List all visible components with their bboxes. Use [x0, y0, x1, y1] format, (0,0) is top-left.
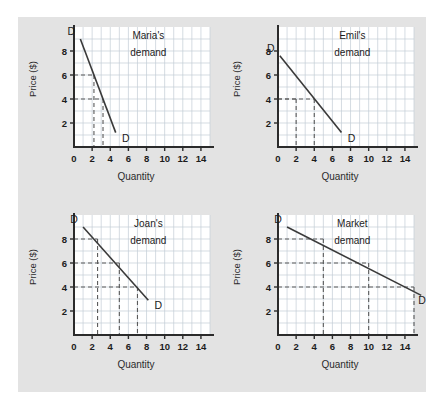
- x-tick-label: 10: [363, 153, 374, 164]
- chart-market: 246802468101214QuantityPrice ($)Marketde…: [222, 205, 426, 392]
- x-axis-ticks: 02468101214: [71, 335, 207, 352]
- x-axis-label: Quantity: [321, 171, 358, 182]
- x-tick-label: 10: [159, 341, 170, 352]
- y-tick-label: 4: [266, 94, 272, 105]
- chart-title-line2: demand: [334, 47, 370, 58]
- curve-label-start: D: [68, 25, 76, 37]
- chart-maria: 246802468101214QuantityPrice ($)Maria'sd…: [18, 17, 222, 204]
- x-tick-label: 12: [382, 341, 393, 352]
- x-tick-label: 4: [312, 153, 318, 164]
- y-tick-label: 4: [266, 282, 272, 293]
- y-axis-ticks: 2468: [62, 46, 74, 129]
- x-tick-label: 4: [108, 153, 114, 164]
- demand-curves-figure: 246802468101214QuantityPrice ($)Maria'sd…: [0, 0, 445, 410]
- y-tick-label: 2: [266, 306, 271, 317]
- x-tick-label: 8: [348, 153, 353, 164]
- y-tick-label: 8: [266, 234, 271, 245]
- x-tick-label: 0: [275, 341, 280, 352]
- x-tick-label: 0: [275, 153, 280, 164]
- curve-label-end: D: [418, 294, 426, 306]
- chart-title-line2: demand: [130, 235, 166, 246]
- chart-title-line1: Joan's: [134, 218, 163, 229]
- y-tick-label: 6: [62, 70, 67, 81]
- x-tick-label: 14: [400, 341, 411, 352]
- x-tick-label: 14: [196, 153, 207, 164]
- x-tick-label: 6: [330, 341, 335, 352]
- x-tick-label: 6: [330, 153, 335, 164]
- x-tick-label: 4: [108, 341, 114, 352]
- figure-panel: 246802468101214QuantityPrice ($)Maria'sd…: [18, 17, 426, 392]
- x-tick-label: 10: [159, 153, 170, 164]
- x-tick-label: 2: [293, 341, 298, 352]
- y-tick-label: 4: [62, 282, 68, 293]
- x-axis-ticks: 02468101214: [71, 147, 207, 164]
- y-axis-label: Price ($): [27, 249, 38, 285]
- x-tick-label: 2: [89, 153, 94, 164]
- curve-label-start: D: [274, 213, 282, 225]
- chart-title-line1: Emil's: [339, 30, 365, 41]
- curve-label-start: D: [70, 213, 78, 225]
- y-tick-label: 2: [62, 306, 67, 317]
- chart-joan: 246802468101214QuantityPrice ($)Joan'sde…: [18, 205, 222, 392]
- x-tick-label: 0: [71, 341, 76, 352]
- chart-grid: 246802468101214QuantityPrice ($)Maria'sd…: [18, 17, 426, 392]
- y-axis-label: Price ($): [27, 61, 38, 97]
- x-tick-label: 10: [363, 341, 374, 352]
- x-tick-label: 14: [196, 341, 207, 352]
- x-tick-label: 0: [71, 153, 76, 164]
- curve-label-end: D: [155, 299, 163, 311]
- chart-cell-maria: 246802468101214QuantityPrice ($)Maria'sd…: [18, 17, 222, 204]
- y-axis-ticks: 2468: [62, 234, 74, 317]
- y-axis-label: Price ($): [231, 249, 242, 285]
- y-tick-label: 6: [62, 258, 67, 269]
- chart-title-line1: Market: [337, 218, 368, 229]
- y-tick-label: 6: [266, 70, 271, 81]
- chart-title-line2: demand: [130, 47, 166, 58]
- x-axis-label: Quantity: [117, 171, 154, 182]
- x-tick-label: 6: [126, 341, 131, 352]
- chart-cell-joan: 246802468101214QuantityPrice ($)Joan'sde…: [18, 205, 222, 392]
- x-tick-label: 14: [400, 153, 411, 164]
- y-tick-label: 4: [62, 94, 68, 105]
- y-axis-ticks: 2468: [266, 46, 278, 129]
- x-axis-label: Quantity: [321, 359, 358, 370]
- y-tick-label: 2: [266, 118, 271, 129]
- x-tick-label: 6: [126, 153, 131, 164]
- x-axis-ticks: 02468101214: [275, 147, 411, 164]
- y-tick-label: 8: [62, 234, 67, 245]
- chart-cell-emil: 246802468101214QuantityPrice ($)Emil'sde…: [222, 17, 426, 204]
- chart-title-line1: Maria's: [132, 30, 164, 41]
- curve-label-end: D: [348, 132, 356, 144]
- y-tick-label: 8: [62, 46, 67, 57]
- x-tick-label: 2: [293, 153, 298, 164]
- x-tick-label: 2: [89, 341, 94, 352]
- y-tick-label: 2: [62, 118, 67, 129]
- x-axis-label: Quantity: [117, 359, 154, 370]
- y-axis-label: Price ($): [231, 61, 242, 97]
- x-tick-label: 8: [348, 341, 353, 352]
- x-tick-label: 12: [382, 153, 393, 164]
- x-tick-label: 8: [144, 341, 149, 352]
- x-tick-label: 4: [312, 341, 318, 352]
- chart-cell-market: 246802468101214QuantityPrice ($)Marketde…: [222, 205, 426, 392]
- y-axis-ticks: 2468: [266, 234, 278, 317]
- x-axis-ticks: 02468101214: [275, 335, 411, 352]
- y-tick-label: 6: [266, 258, 271, 269]
- curve-label-start: D: [267, 42, 275, 54]
- x-tick-label: 12: [178, 341, 189, 352]
- x-tick-label: 12: [178, 153, 189, 164]
- chart-emil: 246802468101214QuantityPrice ($)Emil'sde…: [222, 17, 426, 204]
- curve-label-end: D: [122, 132, 130, 144]
- x-tick-label: 8: [144, 153, 149, 164]
- chart-title-line2: demand: [334, 235, 370, 246]
